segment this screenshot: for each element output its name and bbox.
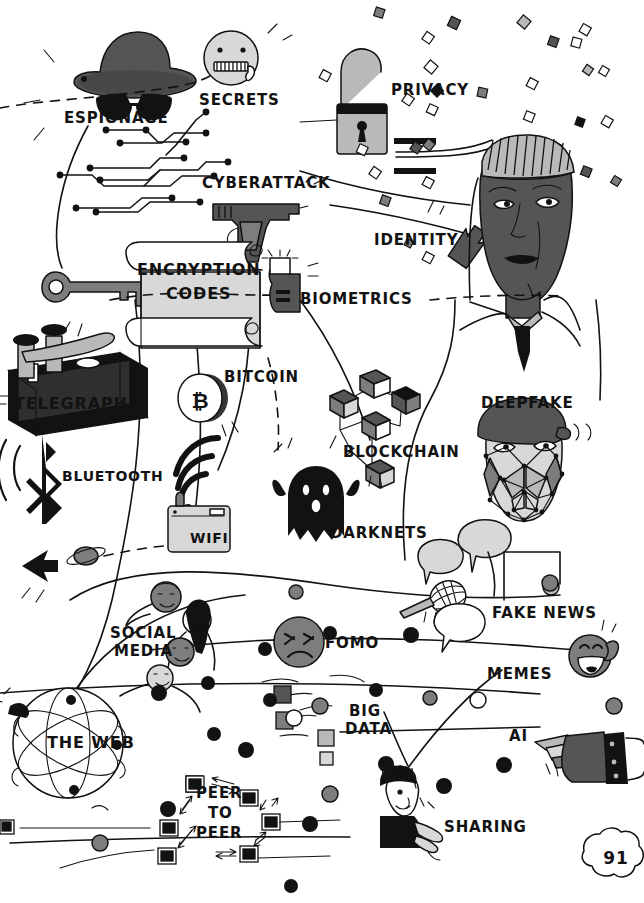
label-memes: MEMES	[487, 667, 552, 682]
label-sharing: SHARING	[444, 820, 527, 835]
label-socialmedia2: MEDIA	[114, 644, 173, 659]
label-bigdata2: DATA	[345, 722, 392, 737]
label-encryption: ENCRYPTION	[137, 262, 260, 278]
label-darknets: DARKNETS	[330, 526, 428, 541]
label-biometrics: BIOMETRICS	[300, 292, 413, 307]
page-number: 91	[599, 850, 633, 867]
label-socialmedia1: SOCIAL	[110, 626, 176, 641]
label-espionage: ESPIONAGE	[64, 111, 169, 126]
svg-text:₿: ₿	[191, 389, 208, 413]
label-wifi: WIFI	[190, 531, 229, 545]
label-codes: CODES	[166, 286, 231, 302]
label-bluetooth: BLUETOOTH	[62, 469, 164, 483]
label-secrets: SECRETS	[199, 93, 280, 108]
illustration-page: .s{fill:none;stroke:#121212;stroke-width…	[0, 0, 644, 903]
infographic-artwork: .s{fill:none;stroke:#121212;stroke-width…	[0, 0, 644, 903]
label-privacy: PRIVACY	[391, 83, 469, 98]
label-cyberattack: CYBERATTACK	[202, 176, 331, 191]
label-ai: AI	[509, 729, 528, 744]
label-to: TO	[208, 806, 233, 821]
label-blockchain: BLOCKCHAIN	[343, 445, 460, 460]
confounded-face-icon	[274, 617, 324, 667]
label-bitcoin: BITCOIN	[224, 370, 299, 385]
label-fakenews: FAKE NEWS	[492, 606, 597, 621]
label-identity: IDENTITY	[374, 233, 458, 248]
label-fomo: FOMO	[325, 636, 379, 651]
label-peer2: PEER	[196, 826, 242, 841]
label-bigdata1: BIG	[349, 704, 381, 719]
label-deepfake: DEEPFAKE	[481, 396, 574, 411]
label-telegraph: TELEGRAPH	[14, 396, 128, 412]
label-peer1: PEER	[196, 786, 242, 801]
label-theweb: THE WEB	[47, 735, 135, 751]
